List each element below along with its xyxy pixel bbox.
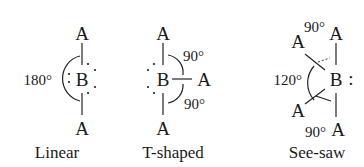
label-linear: Linear <box>35 143 80 162</box>
label-seesaw: See-saw <box>289 143 346 162</box>
seesaw-top-angle-arc <box>318 58 330 62</box>
tshape-bottom-angle-arc <box>168 84 183 103</box>
tshape-bottom-atom: A <box>156 118 170 139</box>
linear-central-atom: B <box>76 69 89 90</box>
label-tshaped: T-shaped <box>142 143 204 162</box>
linear-geometry: A B A 180° <box>24 23 97 139</box>
linear-top-atom: A <box>75 23 89 44</box>
linear-angle-label: 180° <box>24 72 53 88</box>
seesaw-upper-left-atom: A <box>291 31 305 52</box>
seesaw-lower-left-bond <box>305 89 325 104</box>
seesaw-lower-left-atom: A <box>291 100 305 121</box>
tshape-bottom-angle-label: 90° <box>184 96 205 112</box>
seesaw-upper-left-bond <box>305 54 325 70</box>
seesaw-lone-pair: : <box>348 68 353 89</box>
tshape-top-atom: A <box>156 23 170 44</box>
seesaw-geometry: 90° A A B : 120° A 90° A <box>274 19 354 140</box>
seesaw-equatorial-angle-arc <box>308 66 314 100</box>
seesaw-top-atom: A <box>329 23 343 44</box>
tshape-top-angle-label: 90° <box>183 48 204 64</box>
tshaped-geometry: A B A A 90° 90° <box>147 23 211 139</box>
seesaw-bottom-atom: A <box>331 119 345 140</box>
tshape-right-atom: A <box>197 69 211 90</box>
seesaw-central-atom: B <box>330 69 343 90</box>
seesaw-bottom-angle-arc <box>316 96 331 101</box>
tshape-lone-pairs <box>147 63 155 94</box>
tshape-central-atom: B <box>157 69 170 90</box>
seesaw-bottom-angle-label: 90° <box>305 124 326 140</box>
seesaw-equatorial-angle-label: 120° <box>274 72 303 88</box>
seesaw-top-angle-label: 90° <box>304 19 325 35</box>
linear-bottom-atom: A <box>75 118 89 139</box>
tshape-top-angle-arc <box>168 55 183 75</box>
molecular-geometry-diagram: A B A 180° A B A A 90° 90° <box>0 0 364 167</box>
